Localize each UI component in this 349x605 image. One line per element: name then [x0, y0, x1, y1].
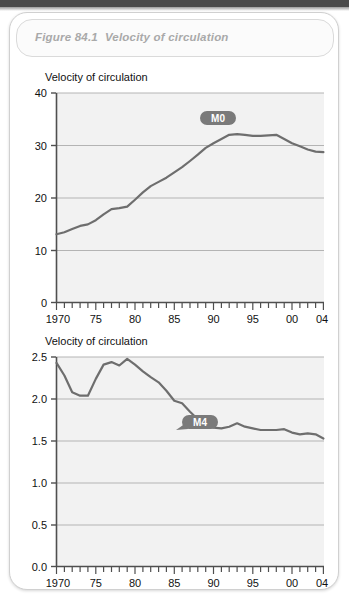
y-ticks: [51, 357, 56, 567]
x-tick-label: 04: [316, 577, 328, 587]
chart-m4-plot: 2.5 2.0 1.5 1.0 0.5 0.0: [10, 335, 340, 587]
figure-title-box: Figure 84.1Velocity of circulation: [16, 19, 334, 57]
x-tick-labels: 1970 75 80 85 90 95 00 04: [46, 577, 328, 587]
chart-m0-plot: 40 30 20 10 0: [10, 71, 340, 331]
x-minor-ticks: [57, 567, 324, 574]
figure-card: Figure 84.1Velocity of circulation Veloc…: [9, 12, 339, 590]
y-tick-label: 0: [41, 297, 47, 309]
x-tick-label: 75: [90, 313, 102, 325]
scan-top-strip: [0, 0, 349, 7]
y-tick-label: 20: [35, 192, 47, 204]
x-tick-label: 04: [316, 313, 328, 325]
x-tick-label: 80: [129, 577, 141, 587]
plot-background: [56, 357, 324, 567]
y-tick-label: 1.0: [32, 477, 47, 489]
chart-panel-m4: Velocity of circulation: [10, 335, 340, 587]
annotation-bubble-m0: M0: [200, 111, 236, 125]
x-tick-label: 90: [207, 577, 219, 587]
chart-m4-svg: 2.5 2.0 1.5 1.0 0.5 0.0: [10, 335, 340, 587]
x-tick-label: 95: [247, 577, 259, 587]
x-tick-label: 00: [286, 577, 298, 587]
y-tick-label: 0.5: [32, 519, 47, 531]
chart-panel-m0: Velocity of circulation: [10, 71, 340, 331]
chart-m0-svg: 40 30 20 10 0: [10, 71, 340, 329]
y-tick-labels: 40 30 20 10 0: [35, 87, 47, 309]
figure-title: Figure 84.1Velocity of circulation: [35, 31, 229, 43]
y-tick-label: 2.5: [32, 351, 47, 363]
y-tick-labels: 2.5 2.0 1.5 1.0 0.5 0.0: [32, 351, 47, 573]
x-tick-label: 90: [207, 313, 219, 325]
x-tick-label: 95: [247, 313, 259, 325]
x-tick-labels: 1970 75 80 85 90 95 00 04: [46, 313, 328, 325]
x-tick-label: 1970: [46, 313, 70, 325]
x-tick-label: 00: [286, 313, 298, 325]
figure-title-label: Velocity of circulation: [105, 31, 229, 43]
x-minor-ticks: [57, 303, 324, 310]
figure-number: Figure 84.1: [35, 31, 98, 43]
annotation-label-m0: M0: [211, 113, 225, 124]
annotation-label-m4: M4: [193, 417, 207, 428]
x-tick-label: 1970: [46, 577, 70, 587]
y-tick-label: 2.0: [32, 393, 47, 405]
x-tick-label: 85: [168, 313, 180, 325]
y-tick-label: 40: [35, 87, 47, 99]
y-tick-label: 10: [35, 245, 47, 257]
y-tick-label: 30: [35, 140, 47, 152]
y-ticks: [51, 93, 56, 303]
x-tick-label: 85: [168, 577, 180, 587]
x-tick-label: 80: [129, 313, 141, 325]
x-tick-label: 75: [90, 577, 102, 587]
y-tick-label: 1.5: [32, 435, 47, 447]
y-tick-label: 0.0: [32, 561, 47, 573]
scan-top-fade: [0, 7, 349, 11]
